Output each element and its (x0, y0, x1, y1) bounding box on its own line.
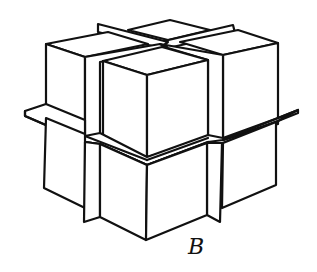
left-lower-cube (44, 118, 85, 208)
vertical-plate-lower-left (84, 142, 100, 222)
figure-label: B (188, 236, 204, 258)
vertical-plate-lower-right (207, 143, 222, 222)
cube-plates-diagram (0, 0, 317, 272)
